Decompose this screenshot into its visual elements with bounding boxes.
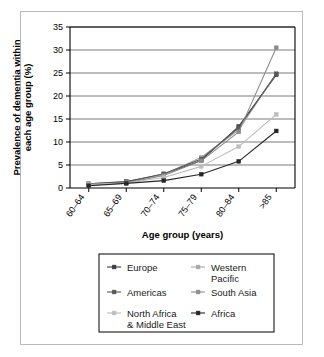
- legend-entry-label: Americas: [127, 287, 167, 298]
- x-axis-tick-label: 70–74: [139, 192, 162, 218]
- y-axis-tick-label: 0: [58, 183, 63, 193]
- y-axis-tick-label: 15: [53, 114, 63, 124]
- x-axis-title-text: Age group (years): [142, 229, 223, 240]
- y-axis-tick-labels: 05101520253035: [53, 22, 70, 193]
- x-axis-tick-label: 75–79: [176, 192, 199, 218]
- legend-entry-label: Africa: [211, 308, 236, 319]
- y-axis-tick-label: 30: [53, 45, 63, 55]
- x-axis-tick-label: 65–69: [101, 192, 124, 218]
- data-point: [237, 130, 241, 134]
- x-axis-tick-label: 80–84: [214, 192, 237, 218]
- legend-swatch-marker: [112, 265, 116, 269]
- series-europe: [87, 73, 278, 186]
- y-axis-tick-label: 25: [53, 68, 63, 78]
- legend-swatch-marker: [112, 290, 116, 294]
- y-axis-title-line: Prevalence of dementia within: [11, 39, 22, 175]
- data-point: [274, 113, 278, 117]
- data-point: [124, 182, 128, 186]
- data-point: [274, 129, 278, 133]
- y-axis-title: Prevalence of dementia withineach age gr…: [11, 39, 33, 175]
- y-axis-tick-label: 5: [58, 160, 63, 170]
- y-axis-tick-label: 20: [53, 91, 63, 101]
- legend-swatch-marker: [196, 311, 200, 315]
- data-point: [199, 172, 203, 176]
- data-point: [87, 184, 91, 188]
- y-axis-title-line: each age group (%): [22, 64, 33, 152]
- plot-area-border: [70, 27, 295, 188]
- legend-swatch-marker: [112, 311, 116, 315]
- data-point: [199, 159, 203, 163]
- dementia-prevalence-line-chart: Prevalence of dementia withineach age gr…: [0, 0, 324, 357]
- legend-entry-label: North Africa: [127, 308, 177, 319]
- data-point: [274, 72, 278, 76]
- y-axis-tick-label: 35: [53, 22, 63, 32]
- legend-entry-label: & Middle East: [127, 319, 186, 330]
- legend-entry-label: Pacific: [211, 273, 239, 284]
- series-north-africa-middle-east: [87, 113, 278, 187]
- data-point: [162, 179, 166, 183]
- x-axis-title: Age group (years): [142, 229, 223, 240]
- series-western-pacific: [87, 72, 278, 188]
- figure-container: Prevalence of dementia withineach age gr…: [0, 0, 324, 357]
- series-line: [89, 114, 277, 184]
- data-point: [237, 145, 241, 149]
- legend-entry-label: Western: [211, 262, 246, 273]
- x-axis-tick-label: >85: [257, 192, 274, 210]
- legend-swatch-marker: [196, 290, 200, 294]
- data-point: [237, 159, 241, 163]
- series-line: [89, 75, 277, 184]
- data-point: [199, 164, 203, 168]
- legend-entry-label: South Asia: [211, 287, 257, 298]
- legend-entry-label: Europe: [127, 262, 158, 273]
- data-series-layer: [87, 46, 278, 188]
- chart-legend: EuropeWesternPacificAmericasSouth AsiaNo…: [99, 254, 274, 332]
- legend-swatch-marker: [196, 265, 200, 269]
- x-axis-tick-label: 60–64: [64, 192, 87, 218]
- y-axis-tick-label: 10: [53, 137, 63, 147]
- x-axis-tick-labels: 60–6465–6970–7475–7980–84>85: [64, 188, 276, 219]
- data-point: [274, 46, 278, 50]
